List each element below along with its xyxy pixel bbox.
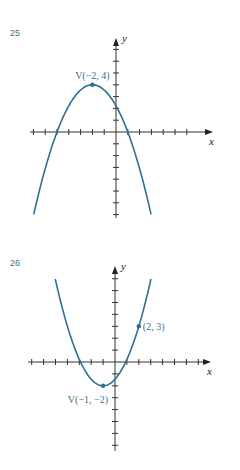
point-label: V(−2, 4) <box>75 70 110 82</box>
parabola-curve <box>34 85 151 215</box>
point-label: V(−1, −2) <box>68 394 108 406</box>
parabola-curve <box>55 279 151 386</box>
exercise-number: 25 <box>10 28 20 38</box>
x-axis-label: x <box>206 365 212 377</box>
figure: 25xyV(−2, 4)26xyV(−1, −2)(2, 3) <box>0 0 240 470</box>
data-point <box>137 324 141 328</box>
y-axis-arrow <box>112 266 118 274</box>
exercise-number: 26 <box>10 258 20 268</box>
graph-26: 26xyV(−1, −2)(2, 3) <box>10 258 212 451</box>
y-axis-label: y <box>120 260 126 272</box>
data-point <box>101 384 105 388</box>
x-axis-label: x <box>208 135 214 147</box>
point-label: (2, 3) <box>143 321 165 333</box>
data-point <box>90 83 94 87</box>
y-axis-label: y <box>121 32 127 44</box>
y-axis-arrow <box>113 38 119 46</box>
graph-25: 25xyV(−2, 4) <box>10 28 214 218</box>
